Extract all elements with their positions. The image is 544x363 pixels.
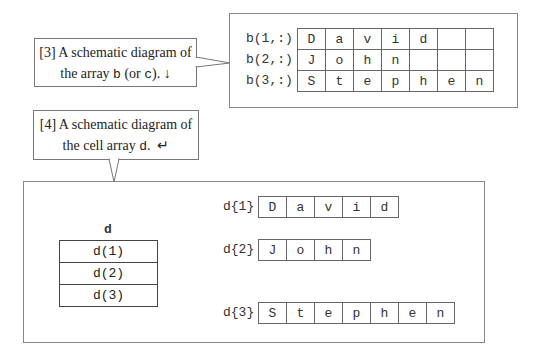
cell-content-label-2: d{2} (223, 242, 254, 257)
char-cell: d (371, 197, 399, 218)
char-cell: e (315, 303, 343, 324)
char-cell: n (343, 240, 371, 261)
cell-array-name: d (104, 222, 112, 237)
char-cell: o (287, 240, 315, 261)
char-cell: t (287, 303, 315, 324)
char-cell: h (371, 303, 399, 324)
cell-content-3: S t e p h e n (258, 302, 455, 324)
char-cell: n (427, 303, 455, 324)
char-cell: v (315, 197, 343, 218)
cell-content-1: D a v i d (258, 196, 399, 218)
cell-content-row: D a v i d (259, 197, 399, 218)
char-cell: p (343, 303, 371, 324)
char-cell: i (343, 197, 371, 218)
char-cell: e (399, 303, 427, 324)
cell-content-row: S t e p h e n (259, 303, 455, 324)
char-cell: a (287, 197, 315, 218)
cell-content-row: J o h n (259, 240, 371, 261)
cell-element-3: d(3) (60, 284, 157, 306)
char-cell: S (259, 303, 287, 324)
cell-array-box: d(1) d(2) d(3) (59, 240, 158, 307)
cell-content-label-3: d{3} (223, 305, 254, 320)
cell-content-2: J o h n (258, 239, 371, 261)
cell-element-1: d(1) (60, 241, 157, 262)
char-cell: J (259, 240, 287, 261)
cell-content-label-1: d{1} (223, 199, 254, 214)
char-cell: D (259, 197, 287, 218)
char-cell: h (315, 240, 343, 261)
cell-element-2: d(2) (60, 262, 157, 284)
